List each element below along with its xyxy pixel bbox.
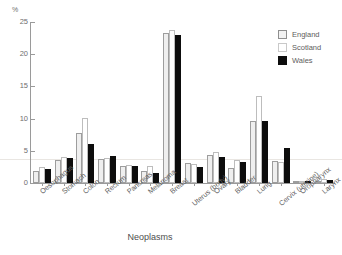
- legend-label: Wales: [292, 56, 313, 65]
- legend-item[interactable]: England: [278, 28, 340, 40]
- bar-group: [248, 22, 270, 183]
- bar: [175, 35, 181, 183]
- bar-group: [31, 22, 53, 183]
- bar-group: [118, 22, 140, 183]
- x-axis-tick: [194, 183, 195, 186]
- legend-item[interactable]: Wales: [278, 54, 340, 66]
- y-axis-tick-label: 25: [12, 18, 28, 25]
- bar-chart: % 0510152025 OesophagusStomachColonRectu…: [0, 0, 342, 255]
- x-axis-tick: [281, 183, 282, 186]
- y-axis-tick-label: 10: [12, 115, 28, 122]
- bar-group: [140, 22, 162, 183]
- y-axis-tick: [31, 183, 35, 184]
- x-axis-title: Neoplasms: [0, 232, 300, 242]
- bar: [197, 167, 203, 183]
- legend: EnglandScotlandWales: [278, 28, 340, 67]
- bar-group: [53, 22, 75, 183]
- legend-label: Scotland: [292, 43, 321, 52]
- legend-swatch-icon: [278, 43, 287, 52]
- legend-swatch-icon: [278, 30, 287, 39]
- y-axis-tick-label: 5: [12, 147, 28, 154]
- legend-item[interactable]: Scotland: [278, 41, 340, 53]
- bar-group: [161, 22, 183, 183]
- bar-group: [205, 22, 227, 183]
- bar-group: [74, 22, 96, 183]
- legend-label: England: [292, 30, 320, 39]
- bar: [284, 148, 290, 183]
- y-axis-tick-label: 15: [12, 82, 28, 89]
- bar-group: [226, 22, 248, 183]
- y-axis-unit-label: %: [12, 6, 18, 13]
- y-axis-tick-label: 0: [12, 179, 28, 186]
- bar-group: [96, 22, 118, 183]
- bar: [262, 121, 268, 183]
- y-axis-tick-label: 20: [12, 50, 28, 57]
- legend-swatch-icon: [278, 56, 287, 65]
- bar-group: [183, 22, 205, 183]
